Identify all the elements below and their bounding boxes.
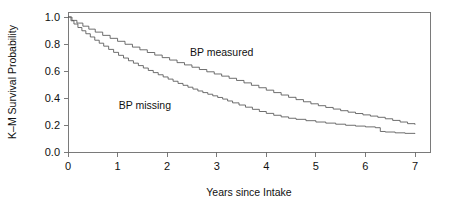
x-axis-title: Years since Intake: [206, 186, 292, 198]
y-axis-tick-labels: 0.00.20.40.60.81.0: [45, 11, 60, 158]
series-label-bp-missing: BP missing: [119, 99, 171, 111]
y-tick-label: 0.6: [45, 65, 60, 77]
x-tick-label: 0: [65, 160, 71, 172]
y-axis-ticks: [64, 17, 68, 152]
y-axis-title: K–M Survival Probability: [6, 24, 18, 139]
x-tick-label: 4: [263, 160, 269, 172]
y-tick-label: 0.0: [45, 146, 60, 158]
y-tick-label: 1.0: [45, 11, 60, 23]
survival-curve-bp-missing: [68, 17, 415, 134]
x-tick-label: 5: [313, 160, 319, 172]
x-tick-label: 6: [362, 160, 368, 172]
km-survival-chart: 0.00.20.40.60.81.0 01234567 BP measuredB…: [0, 0, 450, 211]
x-tick-label: 1: [115, 160, 121, 172]
y-tick-label: 0.8: [45, 38, 60, 50]
survival-curves: [68, 17, 415, 134]
x-tick-label: 2: [164, 160, 170, 172]
x-tick-label: 3: [214, 160, 220, 172]
y-tick-label: 0.4: [45, 92, 60, 104]
x-tick-label: 7: [412, 160, 418, 172]
series-annotations: BP measuredBP missing: [119, 46, 254, 111]
series-label-bp-measured: BP measured: [190, 46, 254, 58]
plot-frame: [68, 12, 430, 152]
x-axis-tick-labels: 01234567: [65, 160, 418, 172]
x-axis-ticks: [68, 152, 415, 157]
chart-canvas: 0.00.20.40.60.81.0 01234567 BP measuredB…: [0, 0, 450, 211]
y-tick-label: 0.2: [45, 119, 60, 131]
